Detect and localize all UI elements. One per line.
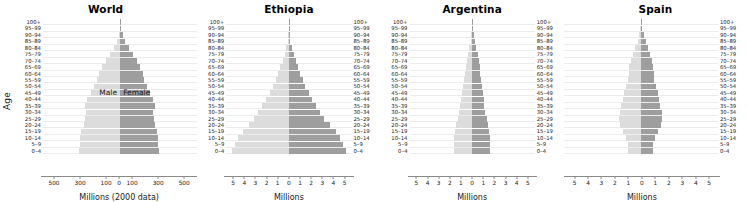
bar-female xyxy=(472,97,483,103)
x-axis-tick-label: 1 xyxy=(459,180,463,186)
bar-male xyxy=(456,122,472,128)
bar-female xyxy=(289,39,291,45)
age-tick-labels-right: 100+95–9990–9485–8980–8475–7970–7465–696… xyxy=(535,18,564,176)
x-axis-main: 54321012345Millions xyxy=(408,176,537,202)
x-axis-tick xyxy=(132,176,133,179)
bar-male xyxy=(102,64,120,70)
bar-female xyxy=(472,129,489,135)
x-axis: 54321012345 xyxy=(408,176,537,192)
bar-male xyxy=(620,122,641,128)
bar-female xyxy=(641,90,658,96)
bar-female xyxy=(120,148,159,154)
x-axis-tick-label: 100 xyxy=(101,180,112,186)
axis-spacer-left xyxy=(381,176,408,202)
bar-female xyxy=(120,110,153,116)
bar-male xyxy=(84,122,120,128)
x-axis-tick xyxy=(244,176,245,179)
bar-male xyxy=(270,90,289,96)
bar-male xyxy=(110,52,120,58)
axis-spacer-right xyxy=(537,176,564,202)
x-axis-tick xyxy=(416,176,417,179)
bar-male xyxy=(80,135,120,141)
x-axis-tick xyxy=(516,176,517,179)
bar-male xyxy=(628,77,641,83)
age-tick-labels-left: 100+95–9990–9485–8980–8475–7970–7465–696… xyxy=(197,18,226,176)
x-axis-main: 5003001000100300500Millions (2000 data) xyxy=(41,176,197,202)
x-axis-tick xyxy=(438,176,439,179)
bar-male xyxy=(629,71,641,77)
age-tick-labels-left: 100+95–9990–9485–8980–8475–7970–7465–696… xyxy=(14,18,43,176)
bar-female xyxy=(289,142,343,148)
bar-female xyxy=(289,90,309,96)
panel-title: Argentina xyxy=(381,0,564,18)
plot-area xyxy=(410,18,535,176)
x-axis-tick xyxy=(494,176,495,179)
axis-spacer-left xyxy=(197,176,224,202)
bar-male xyxy=(465,71,472,77)
bar-female xyxy=(289,116,324,122)
panel-title: Ethiopia xyxy=(197,0,380,18)
x-axis-tick-label: 4 xyxy=(332,180,336,186)
bar-female xyxy=(641,148,653,154)
bar-male xyxy=(624,90,641,96)
bar-female xyxy=(641,116,662,122)
bar-female xyxy=(472,32,473,38)
panel-body: 100+95–9990–9485–8980–8475–7970–7465–696… xyxy=(381,18,564,176)
x-axis-tick-label: 3 xyxy=(254,180,258,186)
bar-male xyxy=(454,135,472,141)
bar-female xyxy=(120,116,154,122)
x-axis-tick-label: 0 xyxy=(287,180,291,186)
x-axis-main: 54321012345Millions xyxy=(224,176,353,202)
x-axis-tick xyxy=(460,176,461,179)
bar-female xyxy=(120,77,144,83)
panel-body: 100+95–9990–9485–8980–8475–7970–7465–696… xyxy=(197,18,380,176)
x-axis: 54321012345 xyxy=(224,176,353,192)
x-axis-tick-label: 2 xyxy=(448,180,452,186)
x-axis-tick xyxy=(614,176,615,179)
bar-female xyxy=(472,64,480,70)
bar-male xyxy=(461,97,472,103)
bar-male xyxy=(623,129,641,135)
panel-body: 100+95–9990–9485–8980–8475–7970–7465–696… xyxy=(564,18,747,176)
panel-spain: Spain100+95–9990–9485–8980–8475–7970–746… xyxy=(564,0,747,202)
bar-male xyxy=(258,110,288,116)
bar-male xyxy=(464,77,472,83)
x-axis-tick-label: 300 xyxy=(153,180,164,186)
x-axis-tick-label: 0 xyxy=(640,180,644,186)
bar-male xyxy=(278,71,289,77)
bar-female xyxy=(120,135,158,141)
bar-female xyxy=(472,52,478,58)
x-axis-tick-label: 4 xyxy=(426,180,430,186)
bar-male xyxy=(460,103,472,109)
bar-female xyxy=(472,110,485,116)
bar-female xyxy=(120,64,140,70)
bar-female xyxy=(641,84,656,90)
x-axis-tick-label: 0 xyxy=(470,180,474,186)
bar-male xyxy=(262,103,288,109)
x-axis-tick-label: 3 xyxy=(600,180,604,186)
bar-rows xyxy=(226,19,351,154)
x-axis-tick xyxy=(587,176,588,179)
x-axis-tick-label: 5 xyxy=(707,180,711,186)
age-tick-labels-right: 100+95–9990–9485–8980–8475–7970–7465–696… xyxy=(352,18,381,176)
panel-world: World100+95–9990–9485–8980–8475–7970–746… xyxy=(14,0,197,202)
x-axis-tick-label: 4 xyxy=(586,180,590,186)
bar-male xyxy=(85,103,121,109)
bar-male xyxy=(619,116,641,122)
x-axis-wrap: 54321012345Millions xyxy=(381,176,564,202)
x-axis-tick-label: 5 xyxy=(415,180,419,186)
age-tick-label: 0–4 xyxy=(537,148,564,154)
bar-male xyxy=(249,122,289,128)
y-axis-label-column: Age xyxy=(0,0,14,202)
x-axis-tick-label: 5 xyxy=(231,180,235,186)
x-axis-tick xyxy=(505,176,506,179)
bar-male xyxy=(455,129,472,135)
bar-male xyxy=(623,97,641,103)
x-axis-tick-label: 1 xyxy=(627,180,631,186)
bar-female xyxy=(472,77,481,83)
x-axis-label: Millions xyxy=(224,193,353,202)
bar-female xyxy=(289,77,303,83)
bar-male xyxy=(273,84,289,90)
x-axis-tick xyxy=(106,176,107,179)
bar-male xyxy=(633,52,641,58)
